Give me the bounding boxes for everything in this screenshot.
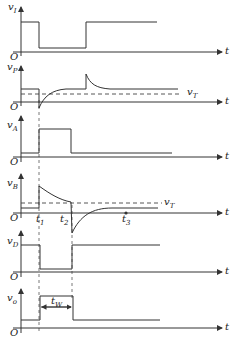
waveform-vD [21,245,160,269]
t-axis-label-vP: t [225,96,229,106]
origin-label-vD: O [10,272,18,282]
pulse-width-label: tW [51,296,62,309]
panel-vI [13,7,222,56]
y-label-vI: vI [8,2,16,15]
threshold-label-vB: vT [164,197,174,210]
origin-label-vo: O [10,328,18,338]
waveform-vo [21,296,160,320]
waveforms-canvas [0,0,235,342]
y-label-vB: vB [7,178,18,191]
y-label-vA: vA [7,120,18,133]
threshold-label-vP: vT [187,87,197,100]
t-axis-label-vD: t [225,266,229,276]
y-label-vP: vP [7,62,17,75]
t3-label: t3 [122,214,131,227]
waveform-vA [21,129,172,153]
t-axis-label-vB: t [225,207,229,217]
t-axis-label-vA: t [225,151,229,161]
t-axis-label-vo: t [225,322,229,332]
monostable-timing-diagram: vI O t vP O vT t vA O t vB O vT t t1 t2 … [0,0,235,342]
origin-label-vP: O [10,102,18,112]
y-label-vD: vD [7,236,18,249]
panel-vo [13,289,222,333]
waveform-vP [21,74,178,108]
t-axis-label-vI: t [225,46,229,56]
y-label-vo: vo [7,293,17,306]
waveform-vI [21,22,157,48]
t1-label: t1 [36,214,45,227]
origin-label-vB: O [10,213,18,223]
panel-vA [13,116,222,162]
t2-label: t2 [60,214,69,227]
panel-vD [13,231,222,277]
origin-label-vA: O [10,157,18,167]
